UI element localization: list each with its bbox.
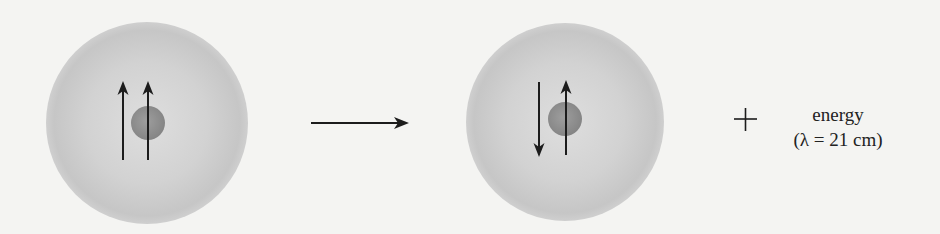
transition-arrow-icon xyxy=(311,117,409,129)
initial-atom xyxy=(46,22,248,224)
final-atom xyxy=(466,23,664,221)
energy-label: energy xyxy=(798,104,878,126)
plus-icon xyxy=(734,108,757,131)
wavelength-label: (λ = 21 cm) xyxy=(772,129,904,151)
spin-flip-diagram: energy (λ = 21 cm) xyxy=(0,0,940,234)
